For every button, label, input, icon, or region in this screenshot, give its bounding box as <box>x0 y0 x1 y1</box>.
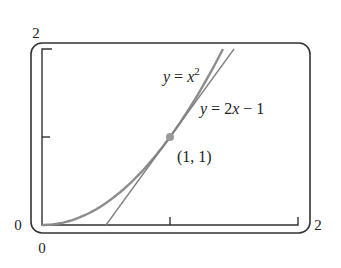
y-min-label: 0 <box>14 217 22 233</box>
x-max-label: 2 <box>314 217 322 233</box>
point-label: (1, 1) <box>177 148 212 166</box>
chart: 2 0 0 2 y = x2 y = 2x − 1 (1, 1) <box>0 0 341 268</box>
y-max-label: 2 <box>32 25 40 41</box>
tangent-label: y = 2x − 1 <box>198 100 264 118</box>
parabola-label: y = x2 <box>161 65 200 86</box>
x-min-label: 0 <box>38 240 46 256</box>
tangent-point-marker <box>166 133 174 141</box>
